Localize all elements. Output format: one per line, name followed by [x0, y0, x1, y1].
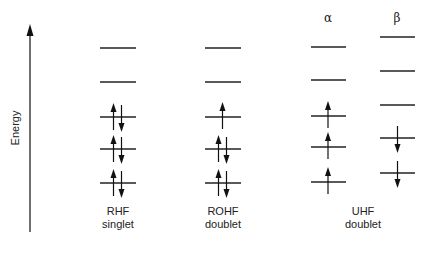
energy-axis-label: Energy [9, 110, 21, 145]
energy-axis: Energy [9, 24, 34, 232]
uhf-beta-header: β [394, 11, 401, 25]
orbital-level [100, 103, 136, 132]
uhf-beta-levels [380, 37, 415, 188]
orbital-level [311, 132, 346, 159]
orbital-level [380, 126, 415, 153]
spin-up-arrow-icon [325, 101, 331, 128]
rhf-title: RHF [107, 205, 130, 217]
panel-rohf: ROHF doublet [205, 48, 241, 230]
spin-up-arrow-icon [325, 132, 331, 159]
panel-uhf: α β UHF doublet [311, 11, 415, 230]
orbital-level [100, 169, 136, 198]
orbital-level [311, 101, 346, 128]
spin-up-arrow-icon [220, 102, 226, 129]
uhf-alpha-header: α [324, 11, 332, 25]
uhf-title: UHF [352, 205, 375, 217]
rhf-levels [100, 48, 136, 198]
uhf-subtitle: doublet [345, 218, 381, 230]
spin-down-arrow-icon [395, 126, 401, 153]
orbital-level [380, 161, 415, 188]
spin-down-arrow-icon [224, 137, 230, 164]
orbital-level [311, 167, 346, 194]
orbital-level [205, 102, 241, 129]
spin-down-arrow-icon [119, 105, 125, 132]
uhf-alpha-levels [311, 47, 346, 194]
rohf-subtitle: doublet [205, 218, 241, 230]
energy-axis-arrowhead-icon [27, 24, 34, 36]
orbital-level [205, 135, 241, 164]
spin-down-arrow-icon [119, 171, 125, 198]
spin-down-arrow-icon [119, 137, 125, 164]
mo-energy-diagram: Energy RHF singlet ROHF doublet α β UHF … [0, 0, 435, 254]
spin-down-arrow-icon [224, 171, 230, 198]
orbital-level [100, 135, 136, 164]
spin-down-arrow-icon [395, 161, 401, 188]
rohf-levels [205, 48, 241, 198]
orbital-level [205, 169, 241, 198]
rohf-title: ROHF [207, 205, 238, 217]
spin-up-arrow-icon [325, 167, 331, 194]
rhf-subtitle: singlet [102, 218, 134, 230]
panel-rhf: RHF singlet [100, 48, 136, 230]
